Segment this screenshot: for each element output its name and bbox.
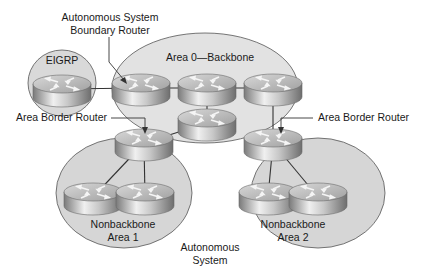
area2-label-line1: Nonbackbone (258, 218, 328, 231)
router-icon (116, 183, 174, 215)
area1-label-line2: Area 1 (88, 231, 158, 244)
router-icon (33, 75, 91, 107)
asbr-label-line1: Autonomous System (60, 11, 160, 24)
router-icon (239, 183, 297, 215)
asbr-label: Autonomous System Boundary Router (60, 11, 160, 37)
area2-label: Nonbackbone Area 2 (258, 218, 328, 244)
router-icon (178, 109, 236, 141)
abr-left-label: Area Border Router (16, 111, 110, 124)
as-label-line1: Autonomous (175, 241, 245, 254)
router-icon (112, 74, 170, 106)
abr-right-label: Area Border Router (318, 111, 412, 124)
area1-label: Nonbackbone Area 1 (88, 218, 158, 244)
network-diagram (0, 0, 424, 278)
area1-label-line1: Nonbackbone (88, 218, 158, 231)
router-icon (244, 74, 302, 106)
router-icon (64, 183, 122, 215)
abr-right-callout-line (281, 118, 313, 129)
asbr-label-line2: Boundary Router (60, 24, 160, 37)
router-icon (289, 183, 347, 215)
router-icon (244, 129, 302, 161)
router-icon (178, 74, 236, 106)
area0-label: Area 0—Backbone (160, 51, 260, 64)
area2-label-line2: Area 2 (258, 231, 328, 244)
router-icon (115, 129, 173, 161)
as-label-line2: System (175, 254, 245, 267)
eigrp-label: EIGRP (40, 54, 84, 67)
autonomous-system-label: Autonomous System (175, 241, 245, 267)
